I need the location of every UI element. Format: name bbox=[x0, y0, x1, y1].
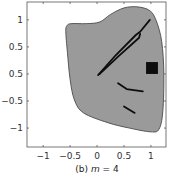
caption-prefix: (b) bbox=[75, 164, 91, 174]
x-tick-label: 0 bbox=[94, 151, 100, 161]
chart: −1−0.500.51 10.50.5−0.5−1 (b) m = 4 bbox=[0, 0, 170, 181]
x-tick-label: 0.5 bbox=[117, 151, 131, 161]
y-tick-label: 0.5 bbox=[9, 42, 23, 52]
y-tick-label: 0.5 bbox=[9, 69, 23, 79]
inclusion-square bbox=[146, 62, 158, 74]
figure-caption: (b) m = 4 bbox=[75, 164, 119, 174]
y-tick-label: −1 bbox=[10, 123, 23, 133]
caption-suffix: = 4 bbox=[100, 164, 119, 174]
y-tick-label: 1 bbox=[17, 15, 23, 25]
plot-area bbox=[66, 7, 164, 132]
y-tick-label: −0.5 bbox=[1, 96, 23, 106]
x-tick-label: −1 bbox=[37, 151, 50, 161]
x-tick-label: −0.5 bbox=[59, 151, 81, 161]
x-tick-label: 1 bbox=[148, 151, 154, 161]
caption-variable: m bbox=[91, 164, 100, 174]
